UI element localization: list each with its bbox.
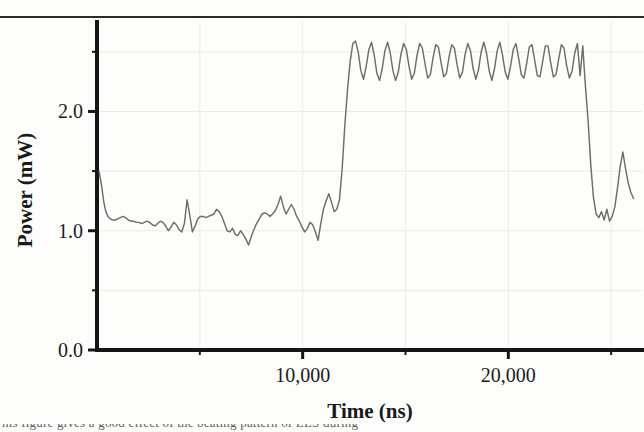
y-tick-label: 2.0 — [58, 100, 83, 122]
power-vs-time-chart: 0.01.02.0 10,00020,000 Time (ns) Power (… — [0, 0, 644, 432]
x-tick-label: 10,000 — [275, 364, 330, 386]
grid-lines — [97, 22, 642, 350]
y-tick-label: 0.0 — [58, 339, 83, 361]
caption-fragment-text: his figure gives a good effect of the be… — [2, 424, 358, 431]
x-axis-title: Time (ns) — [327, 399, 412, 423]
y-tick-label: 1.0 — [58, 220, 83, 242]
y-tick-labels: 0.01.02.0 — [58, 100, 83, 361]
x-tick-labels: 10,00020,000 — [275, 364, 536, 386]
data-line-power — [99, 41, 634, 245]
axis-ticks — [88, 52, 611, 359]
caption-strip: his figure gives a good effect of the be… — [0, 424, 644, 431]
y-axis-title: Power (mW) — [13, 133, 37, 248]
figure-container: 0.01.02.0 10,00020,000 Time (ns) Power (… — [0, 0, 644, 432]
x-tick-label: 20,000 — [481, 364, 536, 386]
